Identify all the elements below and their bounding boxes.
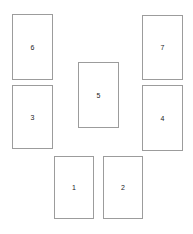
rect-6[interactable]: 6 [12, 14, 53, 80]
rect-3-label: 3 [31, 114, 35, 121]
rect-4[interactable]: 4 [142, 85, 183, 151]
rect-4-label: 4 [161, 115, 165, 122]
rect-6-label: 6 [31, 44, 35, 51]
rect-5-label: 5 [97, 92, 101, 99]
rect-7[interactable]: 7 [142, 15, 183, 80]
rect-5[interactable]: 5 [78, 62, 119, 128]
rect-2-label: 2 [121, 184, 125, 191]
rect-7-label: 7 [161, 44, 165, 51]
diagram-canvas: 6 3 5 7 4 1 2 [0, 0, 193, 234]
rect-2[interactable]: 2 [103, 156, 143, 219]
rect-1-label: 1 [72, 184, 76, 191]
rect-3[interactable]: 3 [12, 85, 53, 149]
rect-1[interactable]: 1 [54, 156, 94, 219]
